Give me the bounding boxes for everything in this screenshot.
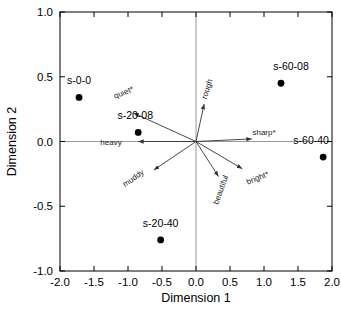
y-tick-label: 0.5 bbox=[37, 71, 53, 83]
vector-arrow bbox=[196, 104, 204, 142]
point-label: s-20-40 bbox=[143, 217, 179, 229]
y-tick-label: 0.0 bbox=[37, 136, 53, 148]
vector-arrow bbox=[196, 142, 218, 177]
scatter-biplot: -2.0-1.5-1.0-0.50.00.51.01.52.01.00.50.0… bbox=[0, 0, 341, 323]
y-tick-label: 1.0 bbox=[37, 6, 53, 18]
x-tick-label: -0.5 bbox=[152, 276, 172, 288]
vector-label: rough bbox=[200, 78, 215, 100]
data-point bbox=[320, 154, 327, 161]
x-tick-label: 1.0 bbox=[256, 276, 272, 288]
data-point bbox=[76, 94, 83, 101]
x-tick-label: 1.5 bbox=[290, 276, 306, 288]
x-tick-label: -1.5 bbox=[84, 276, 104, 288]
data-point bbox=[157, 237, 164, 244]
x-tick-label: 0.5 bbox=[222, 276, 238, 288]
vector-label: heavy bbox=[100, 138, 121, 147]
y-tick-label: -0.5 bbox=[33, 200, 53, 212]
chart-container: -2.0-1.5-1.0-0.50.00.51.01.52.01.00.50.0… bbox=[0, 0, 341, 323]
x-axis-title: Dimension 1 bbox=[161, 291, 231, 305]
y-axis-title: Dimension 2 bbox=[5, 107, 19, 177]
vector-arrow bbox=[196, 142, 242, 169]
vector-label: sharp* bbox=[252, 128, 275, 137]
x-tick-label: -1.0 bbox=[118, 276, 138, 288]
vector-arrow bbox=[154, 142, 196, 170]
point-label: s-60-40 bbox=[293, 134, 329, 146]
y-tick-label: -1.0 bbox=[33, 265, 53, 277]
x-tick-label: 2.0 bbox=[324, 276, 340, 288]
vector-label: bright* bbox=[245, 170, 270, 187]
vector-label: muddy bbox=[121, 168, 146, 189]
point-label: s-60-08 bbox=[273, 60, 309, 72]
vector-label: quiet* bbox=[112, 85, 134, 101]
x-tick-label: 0.0 bbox=[188, 276, 204, 288]
x-tick-label: -2.0 bbox=[50, 276, 70, 288]
point-label: s-20-08 bbox=[117, 109, 153, 121]
data-point bbox=[278, 80, 285, 87]
data-point bbox=[135, 129, 142, 136]
vector-label: beautiful bbox=[211, 174, 230, 206]
point-label: s-0-0 bbox=[67, 74, 91, 86]
